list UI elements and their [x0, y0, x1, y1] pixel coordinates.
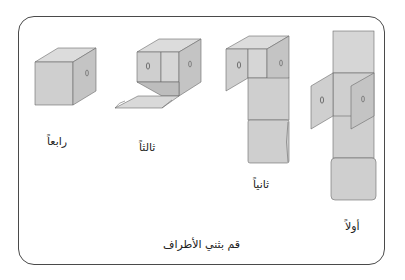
step-3-label: ثالثاً: [139, 141, 155, 154]
figure-caption: قم بثني الأطراف: [163, 238, 240, 251]
step-2-label: ثانياً: [253, 178, 269, 191]
step-3-partially-folded-box: [115, 39, 201, 108]
step-4-label: رابعاً: [47, 135, 67, 148]
step-2-folding-box: [226, 36, 289, 163]
step-1-label: أولاً: [345, 220, 360, 233]
step-1-unfolded-strip: [311, 31, 376, 200]
step-4-closed-box: [35, 48, 96, 105]
